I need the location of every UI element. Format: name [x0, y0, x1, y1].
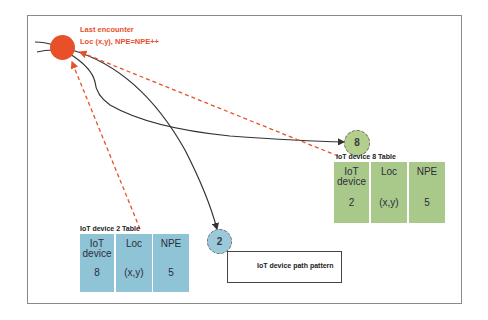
col-value: 8: [80, 268, 114, 278]
col-header: Loc: [371, 167, 407, 177]
device-8-col-npe: NPE 5: [409, 162, 445, 223]
col-header: NPE: [153, 239, 189, 249]
col-value: 2: [334, 198, 369, 208]
col-value: (x,y): [371, 198, 407, 208]
device-8-table-title: IoT device 8 Table: [336, 153, 396, 160]
dashed-link-device-2: [72, 62, 140, 229]
device-8-col-loc: Loc (x,y): [371, 162, 407, 223]
annotation-line-2: Loc (x,y), NPE=NPE++: [80, 36, 159, 47]
col-value: (x,y): [116, 268, 152, 278]
annotation-line-1: Last encounter: [80, 24, 134, 35]
device-2-node-label: 2: [217, 236, 223, 247]
device-2-col-loc: Loc (x,y): [116, 234, 152, 292]
device-2-table-title: IoT device 2 Table: [80, 225, 140, 232]
col-value: 5: [153, 268, 189, 278]
col-header: IoT device: [80, 239, 114, 259]
device-8-node-label: 8: [354, 137, 360, 148]
col-header: NPE: [409, 167, 445, 177]
legend-box: IoT device path pattern: [227, 251, 342, 283]
col-header: Loc: [116, 239, 152, 249]
col-header: IoT device: [334, 167, 369, 187]
last-encounter-node: [50, 35, 75, 60]
device-2-col-device: IoT device 8: [80, 234, 114, 292]
device-8-col-device: IoT device 2: [334, 162, 369, 223]
legend-label: IoT device path pattern: [257, 262, 334, 269]
device-2-col-npe: NPE 5: [153, 234, 189, 292]
col-value: 5: [409, 198, 445, 208]
